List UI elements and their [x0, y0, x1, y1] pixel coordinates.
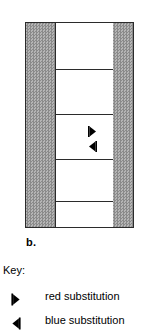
horizontal-divider-line: [55, 201, 113, 202]
triangle-left-icon: [11, 316, 21, 329]
legend-label: red substitution: [45, 290, 120, 302]
center-white-region: [55, 23, 113, 227]
key-heading: Key:: [3, 264, 25, 276]
vertical-divider-line: [55, 23, 56, 227]
figure-panel-b: [25, 22, 134, 228]
horizontal-divider-line: [55, 159, 113, 160]
legend-label: blue substitution: [45, 314, 125, 326]
legend-item-blue-substitution: blue substitution: [0, 314, 154, 332]
triangle-left-icon: [88, 141, 97, 152]
horizontal-divider-line: [55, 69, 113, 70]
horizontal-divider-line: [55, 114, 113, 115]
legend-item-red-substitution: red substitution: [0, 290, 154, 308]
stippled-band-left: [26, 23, 56, 227]
stippled-band-right: [112, 23, 133, 227]
panel-label-b: b.: [26, 236, 36, 248]
triangle-right-icon: [88, 126, 97, 137]
triangle-right-icon: [11, 292, 21, 305]
